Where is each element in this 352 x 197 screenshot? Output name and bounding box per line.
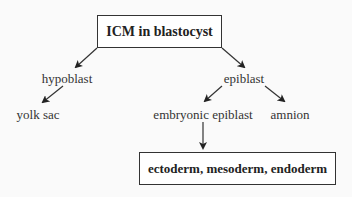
arrow-epiblast-to-amnion [265, 86, 284, 101]
node-embryonic-epiblast: embryonic epiblast [153, 108, 252, 121]
node-amnion: amnion [271, 108, 310, 121]
node-yolk-sac: yolk sac [17, 108, 60, 121]
arrow-epiblast-to-embryonic-epiblast [205, 86, 222, 101]
arrow-icm-to-epiblast [222, 48, 244, 67]
result-label: ectoderm, mesoderm, endoderm [148, 161, 327, 177]
node-epiblast: epiblast [224, 72, 264, 85]
arrow-hypoblast-to-yolk-sac [43, 86, 63, 102]
result-box-germ-layers: ectoderm, mesoderm, endoderm [139, 152, 336, 185]
root-box-icm: ICM in blastocyst [97, 15, 222, 48]
root-label: ICM in blastocyst [106, 24, 213, 40]
diagram-canvas: ICM in blastocyst hypoblast epiblast yol… [0, 0, 352, 197]
arrow-icm-to-hypoblast [76, 48, 97, 67]
node-hypoblast: hypoblast [42, 72, 93, 85]
